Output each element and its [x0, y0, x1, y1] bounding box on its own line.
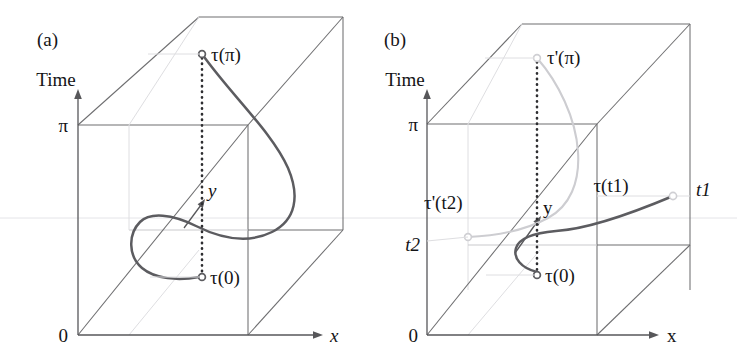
figure-root: (a) Time π 0 x y τ(π) τ(0)	[0, 0, 737, 359]
y-axis-label-b: y	[543, 197, 553, 218]
cube-a-bottom-right-diagonal	[248, 230, 343, 335]
time-axis-arrowhead-b	[423, 89, 431, 99]
cube-b-bottom-interior-diagonal	[468, 250, 540, 335]
tick-zero-b: 0	[409, 325, 419, 346]
tau-zero-label-a: τ(0)	[210, 267, 240, 289]
x-axis-label-b: x	[667, 325, 677, 346]
tau-zero-marker-b	[534, 272, 541, 279]
x-axis-label-a: x	[329, 325, 339, 346]
time-axis-label-b: Time	[385, 69, 424, 90]
tau-t1-label-b: τ(t1)	[593, 175, 628, 197]
tau-prime-t2-guide-b	[427, 237, 468, 241]
tick-pi-a: π	[58, 115, 68, 136]
tau-pi-marker-a	[199, 51, 206, 58]
tick-t1-b: t1	[696, 179, 711, 200]
tau-t1-marker-b	[669, 192, 676, 199]
panel-a-label: (a)	[37, 29, 58, 51]
panel-a-x-axis	[78, 331, 323, 339]
tau-zero-label-b: τ(0)	[545, 265, 575, 287]
tick-pi-b: π	[408, 114, 418, 135]
cube-a-top-left-edge	[78, 17, 199, 125]
tau-pi-label-a: τ(π)	[211, 44, 241, 66]
panel-b-cube-edges	[427, 24, 690, 335]
tau-prime-pi-label-b: τ'(π)	[547, 47, 580, 69]
panel-a-time-axis	[74, 89, 82, 335]
time-axis-arrowhead-a	[74, 89, 82, 99]
tau-curve-b	[515, 196, 673, 272]
cube-a-bottom-interior-diagonal	[129, 250, 199, 335]
tick-zero-a: 0	[59, 325, 69, 346]
tau-curve-a	[131, 54, 294, 279]
cube-a-interior-top-diagonal	[129, 17, 199, 125]
cube-b-interior-top-diagonal	[468, 24, 522, 124]
cube-b-bottom-right-diagonal	[597, 245, 690, 335]
y-axis-label-a: y	[206, 180, 217, 201]
figure-svg: (a) Time π 0 x y τ(π) τ(0)	[0, 0, 737, 359]
x-axis-arrowhead-a	[313, 331, 323, 339]
panel-a: (a) Time π 0 x y τ(π) τ(0)	[36, 17, 343, 346]
time-axis-label-a: Time	[36, 69, 75, 90]
tau-prime-pi-marker-b	[534, 55, 541, 62]
tau-prime-curve-b	[468, 58, 578, 237]
cube-b-top-right-edge	[597, 24, 690, 124]
cube-b-top-left-edge	[427, 24, 522, 124]
cube-a-top-right-edge	[248, 17, 343, 125]
tau-prime-t2-label-b: τ'(t2)	[424, 192, 463, 214]
x-axis-arrowhead-b	[649, 331, 659, 339]
panel-b-x-axis	[427, 331, 659, 339]
tick-t2-b: t2	[405, 234, 420, 255]
tau-zero-marker-a	[199, 274, 206, 281]
panel-b: (b) Time π t2 0 t1 x y τ'(π) τ'(t2) τ(t1…	[384, 24, 711, 346]
panel-b-label: (b)	[384, 29, 406, 51]
